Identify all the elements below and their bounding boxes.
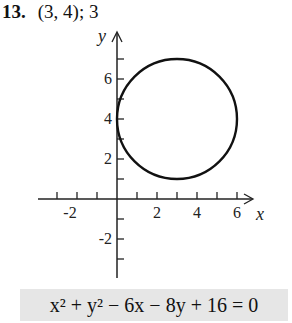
circle-curve: [117, 59, 237, 179]
x-axis-ticks: [57, 192, 237, 199]
x-tick-label: -2: [63, 204, 76, 221]
y-tick-label: 4: [104, 110, 112, 127]
x-tick-label: 6: [233, 204, 241, 221]
x-axis: -2 2 4 6 x: [38, 192, 264, 224]
y-axis-ticks: [117, 59, 124, 259]
equation-box: x² + y² − 6x − 8y + 16 = 0: [20, 289, 288, 321]
y-axis-label: y: [96, 26, 106, 46]
x-tick-label: 4: [193, 204, 201, 221]
circle-plot: -2 2 4 6 x -2 2 4 6 y: [0, 0, 292, 323]
equation-text: x² + y² − 6x − 8y + 16 = 0: [50, 294, 258, 317]
y-tick-label: 6: [104, 70, 112, 87]
y-axis: -2 2 4 6 y: [96, 26, 124, 278]
y-tick-label: 2: [104, 150, 112, 167]
x-tick-label: 2: [153, 204, 161, 221]
y-tick-label: -2: [99, 230, 112, 247]
x-axis-label: x: [255, 204, 264, 224]
